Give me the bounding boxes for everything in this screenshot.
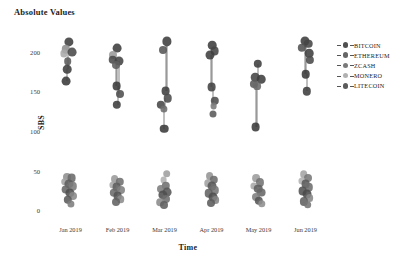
data-point <box>159 46 167 54</box>
legend-marker-icon <box>337 50 354 60</box>
x-axis-tick-2: Mar 2019 <box>152 226 177 233</box>
data-point <box>67 200 74 207</box>
y-axis-tick-2: 100 <box>30 127 40 134</box>
data-point <box>160 201 168 209</box>
data-point <box>112 61 120 69</box>
y-axis-tick-4: 200 <box>30 48 40 55</box>
legend-marker-icon <box>337 40 354 50</box>
data-point <box>305 56 313 64</box>
legend-item-litecoin[interactable]: LITECOIN <box>337 81 416 91</box>
x-axis-tick-3: Apr 2019 <box>200 226 224 233</box>
y-axis-tick-0: 0 <box>37 207 40 214</box>
series-connector <box>256 84 257 127</box>
chart-root: Absolute Values SBS Time 050100150200 Ja… <box>0 0 416 271</box>
legend-dot <box>343 83 349 89</box>
data-point <box>116 90 124 98</box>
legend-item-zcash[interactable]: ZCASH <box>337 60 416 70</box>
legend-marker-icon <box>337 60 354 70</box>
legend-label: BITCOIN <box>354 42 381 49</box>
data-point <box>254 59 262 67</box>
plot-area: SBS Time 050100150200 Jan 2019Feb 2019Ma… <box>47 32 329 218</box>
x-axis-tick-4: May 2019 <box>246 226 272 233</box>
data-point <box>112 101 120 109</box>
data-point <box>160 124 169 133</box>
legend-item-monero[interactable]: MONERO <box>337 71 416 81</box>
legend-label: ZCASH <box>354 62 376 69</box>
x-axis-tick-1: Feb 2019 <box>106 226 130 233</box>
data-point <box>301 70 310 79</box>
legend-dot <box>343 52 349 58</box>
legend-dot <box>343 73 349 79</box>
data-point <box>68 47 77 56</box>
y-axis-label: SBS <box>37 93 46 153</box>
legend-marker-icon <box>337 81 354 91</box>
data-point <box>253 82 261 90</box>
data-point <box>251 123 260 132</box>
data-point <box>210 103 217 110</box>
data-point <box>304 201 312 209</box>
data-point <box>258 200 265 207</box>
legend-label: ETHEREUM <box>354 52 390 59</box>
data-point <box>112 198 120 206</box>
data-point <box>207 199 215 207</box>
y-axis-tick-3: 150 <box>30 88 40 95</box>
data-point <box>303 87 311 95</box>
legend-item-bitcoin[interactable]: BITCOIN <box>337 40 416 50</box>
legend-item-ethereum[interactable]: ETHEREUM <box>337 50 416 60</box>
legend-label: LITECOIN <box>354 82 385 89</box>
series-connector <box>167 46 168 91</box>
data-point <box>207 83 216 92</box>
legend-label: MONERO <box>354 72 382 79</box>
y-axis-tick-1: 50 <box>33 167 40 174</box>
legend-dot <box>343 63 349 69</box>
data-point <box>62 77 71 86</box>
x-axis-tick-0: Jan 2019 <box>59 226 82 233</box>
data-point <box>160 105 167 112</box>
legend-marker-icon <box>337 71 354 81</box>
data-point <box>162 37 171 46</box>
chart-title: Absolute Values <box>14 7 75 17</box>
chart-legend: BITCOINETHEREUMZCASHMONEROLITECOIN <box>337 40 416 91</box>
legend-dot <box>343 42 349 48</box>
x-axis-tick-5: Jun 2019 <box>294 226 317 233</box>
data-point <box>63 65 72 74</box>
x-axis-label: Time <box>47 243 329 252</box>
data-point <box>205 50 214 59</box>
data-point <box>209 110 216 117</box>
data-point <box>163 94 172 103</box>
